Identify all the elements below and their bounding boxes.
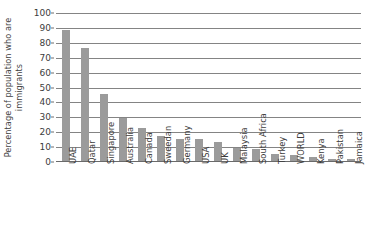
y-tick-mark-90 (51, 27, 54, 28)
x-axis-label-text: Germany (183, 126, 191, 165)
y-tick-mark-20 (51, 132, 54, 133)
x-axis-label-text: Sweedan (164, 126, 172, 164)
y-tick-mark-0 (51, 162, 54, 163)
y-tick-label-30: 30 (27, 113, 51, 122)
y-axis-title: Percentage of population who are immigra… (0, 0, 28, 175)
y-axis-tick-labels: 0102030405060708090100 (28, 0, 54, 175)
y-tick-label-0: 0 (27, 158, 51, 167)
bar-chart: Percentage of population who are immigra… (0, 0, 368, 232)
y-tick-mark-80 (51, 42, 54, 43)
y-tick-label-10: 10 (27, 143, 51, 152)
x-axis-label-text: Kenya (317, 138, 325, 164)
y-tick-label-50: 50 (27, 83, 51, 92)
x-axis-label-text: Pakistan (336, 129, 344, 164)
x-axis-label-text: South Africa (259, 113, 267, 164)
x-axis-label-usa: USA (202, 164, 219, 230)
x-axis-label-text: Turkey (278, 137, 286, 164)
x-axis-label-text: WORLD (297, 132, 305, 164)
x-axis-label-text: UAE (69, 147, 77, 164)
y-tick-label-90: 90 (27, 23, 51, 32)
y-tick-label-80: 80 (27, 38, 51, 47)
y-tick-mark-70 (51, 57, 54, 58)
y-tick-mark-50 (51, 87, 54, 88)
x-axis-label-uae: UAE (69, 164, 86, 230)
x-axis-label-text: Singapore (107, 122, 115, 164)
x-axis-label-text: Jamaica (355, 131, 363, 164)
y-tick-label-20: 20 (27, 128, 51, 137)
y-tick-label-100: 100 (27, 9, 51, 18)
y-tick-label-40: 40 (27, 98, 51, 107)
y-tick-mark-40 (51, 102, 54, 103)
y-axis-title-line-2: immigrants (14, 18, 25, 158)
y-tick-mark-30 (51, 117, 54, 118)
x-axis-category-labels: UAEQatarSingaporeAustraliaCanadaSweedanG… (56, 164, 361, 232)
x-axis-label-uk: UK (221, 164, 233, 230)
y-tick-label-70: 70 (27, 53, 51, 62)
x-axis-label-text: Qatar (88, 140, 96, 164)
y-tick-mark-60 (51, 72, 54, 73)
x-axis-label-text: Malaysia (240, 127, 248, 164)
x-axis-label-text: USA (202, 147, 210, 164)
y-tick-mark-10 (51, 147, 54, 148)
y-axis-title-line-1: Percentage of population who are (4, 18, 15, 158)
x-axis-label-text: UK (221, 152, 229, 164)
y-tick-mark-100 (51, 13, 54, 14)
x-axis-label-text: Australia (126, 127, 134, 164)
bar (62, 30, 70, 161)
x-axis-label-text: Canada (145, 132, 153, 164)
y-tick-label-60: 60 (27, 68, 51, 77)
x-axis-label-jamaica: Jamaica (355, 164, 368, 230)
